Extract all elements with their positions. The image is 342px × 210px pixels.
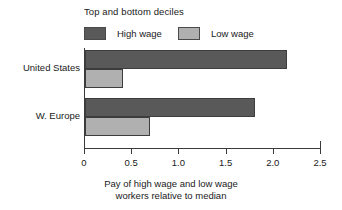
legend-swatch-low-wage <box>178 27 200 40</box>
x-tick-label-1: 0.5 <box>125 157 138 168</box>
legend-item-low-wage[interactable]: Low wage <box>178 26 254 40</box>
x-axis-line <box>84 148 321 149</box>
x-tick-label-2: 1.0 <box>172 157 185 168</box>
plot-area: 00.51.01.52.02.5 <box>84 48 321 148</box>
category-label-w-europe: W. Europe <box>36 110 80 121</box>
category-label-united-states: United States <box>23 62 80 73</box>
bar-low-wage-united-states[interactable] <box>85 69 123 88</box>
x-tick-1 <box>131 148 132 154</box>
bar-chart: Top and bottom deciles High wage Low wag… <box>0 0 342 210</box>
legend-label-low-wage: Low wage <box>211 28 254 39</box>
x-tick-label-4: 2.0 <box>266 157 279 168</box>
x-tick-5 <box>320 148 321 154</box>
x-tick-label-3: 1.5 <box>219 157 232 168</box>
x-tick-label-0: 0 <box>81 157 86 168</box>
x-axis-title-line1: Pay of high wage and low wage <box>0 178 342 190</box>
bar-high-wage-w-europe[interactable] <box>85 98 255 117</box>
legend-item-high-wage[interactable]: High wage <box>84 26 162 40</box>
legend-title: Top and bottom deciles <box>84 6 184 17</box>
x-tick-4 <box>273 148 274 154</box>
x-tick-label-5: 2.5 <box>313 157 326 168</box>
x-axis-title: Pay of high wage and low wage workers re… <box>0 178 342 201</box>
x-tick-3 <box>226 148 227 154</box>
x-axis-title-line2: workers relative to median <box>0 190 342 202</box>
legend-label-high-wage: High wage <box>117 28 162 39</box>
x-tick-0 <box>84 148 85 154</box>
legend-swatch-high-wage <box>84 27 106 40</box>
bar-low-wage-w-europe[interactable] <box>85 117 150 136</box>
x-tick-2 <box>178 148 179 154</box>
bar-high-wage-united-states[interactable] <box>85 50 287 69</box>
